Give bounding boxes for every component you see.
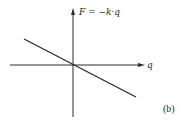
force-line [24, 39, 136, 97]
x-axis-arrowhead [138, 63, 145, 67]
y-axis-arrowhead [71, 8, 75, 15]
y-axis-label: F = −k·q [78, 7, 120, 17]
x-axis-label: q [147, 60, 153, 70]
force-diagram: F = −k·q q (b) [0, 0, 187, 123]
panel-label: (b) [163, 103, 175, 115]
